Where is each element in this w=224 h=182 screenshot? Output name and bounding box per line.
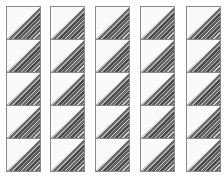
tile-column-3 — [95, 6, 130, 172]
diagonal-stripes — [187, 40, 220, 72]
diagonal-stripes — [141, 40, 174, 72]
tile-column-2 — [50, 6, 85, 172]
striped-tile — [140, 6, 175, 40]
striped-tile — [6, 6, 41, 40]
diagonal-stripes — [7, 40, 40, 72]
tile-grid — [0, 0, 224, 182]
diagonal-stripes — [141, 106, 174, 138]
diagonal-stripes — [96, 106, 129, 138]
diagonal-stripes — [51, 106, 84, 138]
tile-column-5 — [186, 6, 221, 172]
striped-tile — [186, 39, 221, 73]
diagonal-stripes — [96, 7, 129, 39]
striped-tile — [6, 105, 41, 139]
striped-tile — [6, 138, 41, 172]
tile-column-1 — [6, 6, 41, 172]
striped-tile — [6, 39, 41, 73]
striped-tile — [95, 72, 130, 106]
diagonal-stripes — [7, 139, 40, 171]
striped-tile — [186, 72, 221, 106]
diagonal-stripes — [187, 106, 220, 138]
striped-tile — [95, 138, 130, 172]
diagonal-stripes — [96, 73, 129, 105]
tile-column-4 — [140, 6, 175, 172]
striped-tile — [140, 39, 175, 73]
diagonal-stripes — [141, 73, 174, 105]
diagonal-stripes — [7, 73, 40, 105]
striped-tile — [50, 105, 85, 139]
diagonal-stripes — [187, 73, 220, 105]
striped-tile — [186, 105, 221, 139]
diagonal-stripes — [187, 139, 220, 171]
striped-tile — [50, 138, 85, 172]
striped-tile — [95, 39, 130, 73]
striped-tile — [50, 39, 85, 73]
striped-tile — [186, 138, 221, 172]
diagonal-stripes — [141, 139, 174, 171]
diagonal-stripes — [51, 139, 84, 171]
diagonal-stripes — [51, 40, 84, 72]
striped-tile — [95, 105, 130, 139]
diagonal-stripes — [7, 7, 40, 39]
diagonal-stripes — [187, 7, 220, 39]
striped-tile — [140, 138, 175, 172]
striped-tile — [50, 6, 85, 40]
diagonal-stripes — [51, 73, 84, 105]
diagonal-stripes — [7, 106, 40, 138]
striped-tile — [50, 72, 85, 106]
striped-tile — [140, 72, 175, 106]
striped-tile — [6, 72, 41, 106]
striped-tile — [140, 105, 175, 139]
diagonal-stripes — [141, 7, 174, 39]
striped-tile — [186, 6, 221, 40]
diagonal-stripes — [96, 139, 129, 171]
diagonal-stripes — [51, 7, 84, 39]
striped-tile — [95, 6, 130, 40]
diagonal-stripes — [96, 40, 129, 72]
